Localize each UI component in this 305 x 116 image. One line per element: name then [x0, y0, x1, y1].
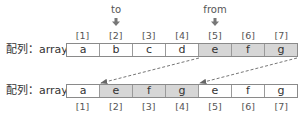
index-label: [1]: [66, 102, 99, 112]
array-cell-shaded: f: [133, 85, 166, 97]
bottom-array-label: 配列：array: [6, 84, 68, 98]
bottom-array: a e f g e f g: [66, 84, 298, 98]
array-cell: e: [199, 85, 232, 97]
index-label: [4]: [165, 102, 198, 112]
index-label: [5]: [199, 102, 232, 112]
array-cell: f: [232, 85, 265, 97]
index-label: [6]: [232, 102, 265, 112]
move-arrows: [0, 0, 305, 116]
array-cell-shaded: g: [166, 85, 199, 97]
array-cell: a: [67, 85, 100, 97]
index-label: [7]: [265, 102, 298, 112]
bottom-index-row: [1] [2] [3] [4] [5] [6] [7]: [66, 102, 298, 112]
dashed-arrow-icon: [200, 58, 297, 83]
array-cell: g: [265, 85, 297, 97]
array-cell-shaded: e: [100, 85, 133, 97]
index-label: [3]: [132, 102, 165, 112]
dashed-arrow-icon: [101, 58, 199, 83]
index-label: [2]: [99, 102, 132, 112]
